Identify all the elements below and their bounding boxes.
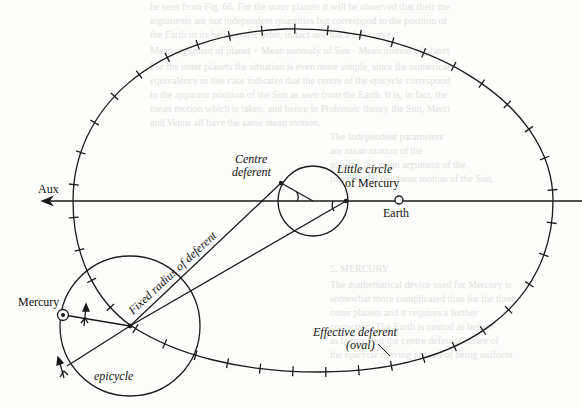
centre-deferent-point — [279, 181, 283, 185]
oval-tick — [259, 364, 260, 374]
oval-tick — [525, 126, 533, 132]
oval-tick — [87, 278, 96, 283]
little-circle-label: Little circle — [336, 162, 393, 176]
motion-arrow-icon — [57, 357, 68, 378]
oval-tick — [390, 361, 392, 371]
diagram-canvas: be seen from Fig. 66. For the outer plan… — [0, 0, 582, 408]
oval-tick — [261, 26, 262, 36]
oval-tick — [69, 217, 79, 218]
epicycle-centre-point — [128, 324, 133, 329]
oval-tick — [359, 30, 361, 40]
oval-tick — [480, 326, 486, 334]
oval-tick — [479, 80, 485, 88]
oval-tick — [69, 184, 79, 185]
mercury-label: Mercury — [18, 295, 59, 309]
oval-tick — [525, 282, 533, 287]
oval-tick — [90, 120, 99, 125]
centre-deferent-label-line2: deferent — [232, 165, 272, 179]
fixed-radius-label: Fixed radius of deferent — [125, 228, 220, 318]
little-circle-label-line2: of Mercury — [345, 176, 399, 190]
effective-deferent-label-line2: (oval) — [346, 338, 375, 352]
oval-tick — [547, 190, 557, 191]
earth-label: Earth — [383, 206, 409, 220]
oval-leader-line — [378, 344, 390, 356]
centre-deferent-label: Centre — [235, 152, 268, 166]
epicycle-diameter-line — [67, 326, 130, 366]
oval-tick — [358, 365, 359, 375]
motion-arrow-icon — [81, 304, 89, 326]
oval-tick — [293, 366, 294, 376]
mercury-planet-icon — [58, 310, 69, 321]
effective-deferent-label: Effective deferent — [312, 325, 398, 339]
aux-label: Aux — [38, 182, 59, 196]
mercury-model-diagram: Aux Centre deferent Little circle of Mer… — [0, 0, 582, 408]
oval-tick — [327, 25, 328, 35]
oval-tick — [451, 62, 456, 71]
fixed-radius-line — [130, 183, 281, 326]
oval-tick — [547, 222, 557, 223]
earth-icon — [395, 196, 403, 204]
little-circle-point — [344, 199, 348, 203]
epicycle-label: epicycle — [94, 369, 134, 383]
oval-tick — [136, 71, 142, 79]
angle-arc-little-circle — [332, 201, 334, 211]
oval-tick — [165, 53, 170, 62]
oval-tick — [133, 324, 138, 332]
